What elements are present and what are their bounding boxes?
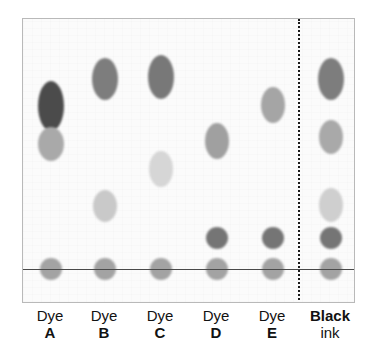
chromatogram-spot xyxy=(320,227,342,249)
chromatogram-spot xyxy=(262,227,284,249)
lane-label-line1: Dye xyxy=(188,308,244,325)
chromatogram-spot xyxy=(148,55,174,99)
chromatogram-spot xyxy=(206,227,228,249)
chromatogram-spot xyxy=(319,188,343,222)
chromatogram-spot xyxy=(38,127,64,161)
chromatogram-spot xyxy=(38,81,64,131)
chromatography-plate xyxy=(22,18,355,303)
chromatogram-spot xyxy=(92,58,118,100)
lane-label-line2: E xyxy=(244,325,300,342)
lane-label-dye-d: Dye D xyxy=(188,308,244,342)
lane-label-line1: Black xyxy=(302,308,358,325)
lane-label-line2: A xyxy=(22,325,78,342)
chromatogram-spot xyxy=(149,151,173,187)
dashed-divider-line xyxy=(298,19,300,303)
baseline-pencil-line xyxy=(23,269,355,270)
lane-label-line2: ink xyxy=(302,325,358,342)
lane-label-line1: Dye xyxy=(22,308,78,325)
lane-label-line1: Dye xyxy=(132,308,188,325)
chromatogram-spot xyxy=(261,87,285,123)
lane-label-dye-e: Dye E xyxy=(244,308,300,342)
lane-label-black-ink: Black ink xyxy=(302,308,358,342)
lane-label-line2: D xyxy=(188,325,244,342)
lane-label-line1: Dye xyxy=(244,308,300,325)
lane-label-line2: C xyxy=(132,325,188,342)
chromatogram-spot xyxy=(93,190,117,222)
chromatogram-spot xyxy=(319,120,343,154)
lane-label-line1: Dye xyxy=(76,308,132,325)
lane-label-dye-b: Dye B xyxy=(76,308,132,342)
chromatogram-spot xyxy=(205,123,229,159)
lane-label-dye-a: Dye A xyxy=(22,308,78,342)
lane-label-dye-c: Dye C xyxy=(132,308,188,342)
chromatography-figure: Dye A Dye B Dye C Dye D Dye E Black ink xyxy=(0,0,376,360)
lane-label-line2: B xyxy=(76,325,132,342)
chromatogram-spot xyxy=(318,58,344,100)
